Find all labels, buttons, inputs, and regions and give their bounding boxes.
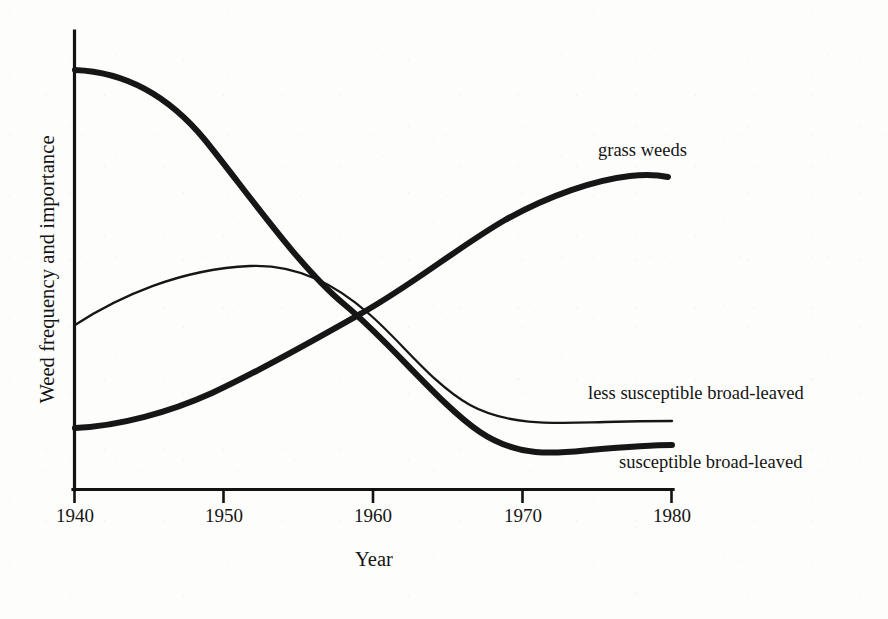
series-susceptible-broad-leaved: [75, 70, 672, 453]
series-less-susceptible-broad-leaved: [75, 266, 672, 423]
series-grass-weeds: [75, 175, 668, 428]
x-tick-label-1960: 1960: [333, 505, 413, 527]
series-label-grass-weeds: grass weeds: [598, 140, 687, 161]
x-axis-label: Year: [0, 548, 748, 571]
weed-frequency-line-chart: Weed frequency and importance Year 1940 …: [0, 0, 888, 619]
series-label-less-susceptible-broad-leaved: less susceptible broad-leaved: [588, 383, 804, 404]
y-axis-label: Weed frequency and importance: [36, 105, 59, 435]
x-tick-label-1980: 1980: [632, 505, 712, 527]
x-tick-label-1950: 1950: [184, 505, 264, 527]
x-tick-label-1970: 1970: [483, 505, 563, 527]
series-label-susceptible-broad-leaved: susceptible broad-leaved: [619, 452, 802, 473]
chart-plot-area: [0, 0, 888, 619]
x-tick-label-1940: 1940: [35, 505, 115, 527]
